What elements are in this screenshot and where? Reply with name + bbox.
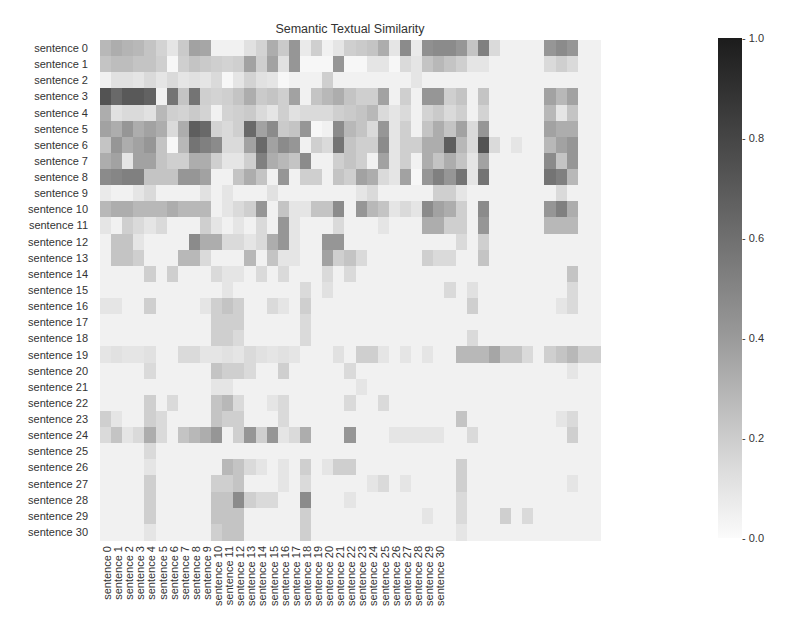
x-tick-label: sentence 16	[279, 546, 291, 606]
colorbar-tick-label: - 0.8	[742, 132, 764, 144]
y-tick-label: sentence 16	[28, 300, 88, 312]
y-tick-label: sentence 19	[28, 349, 88, 361]
heatmap-cell	[589, 475, 601, 492]
heatmap-cell	[589, 153, 601, 170]
colorbar	[718, 38, 742, 538]
heatmap-cell	[589, 298, 601, 315]
x-tick-label: sentence 17	[290, 546, 302, 606]
y-tick-label: sentence 0	[34, 42, 88, 54]
x-tick-label: sentence 27	[401, 546, 413, 606]
heatmap-cell	[589, 266, 601, 283]
colorbar-tick-label: - 0.0	[742, 532, 764, 544]
y-tick-label: sentence 1	[34, 58, 88, 70]
y-tick-label: sentence 13	[28, 252, 88, 264]
y-tick-label: sentence 6	[34, 139, 88, 151]
x-tick-label: sentence 8	[190, 546, 202, 600]
y-tick-label: sentence 8	[34, 171, 88, 183]
heatmap-cell	[589, 314, 601, 331]
heatmap-cell	[589, 185, 601, 202]
x-axis-labels: sentence 0sentence 1sentence 2sentence 3…	[100, 546, 600, 636]
y-tick-label: sentence 14	[28, 268, 88, 280]
heatmap-cell	[589, 201, 601, 218]
heatmap-cell	[589, 443, 601, 460]
heatmap-cell	[589, 346, 601, 363]
y-tick-label: sentence 12	[28, 236, 88, 248]
x-tick-label: sentence 26	[390, 546, 402, 606]
heatmap-cell	[589, 217, 601, 234]
x-tick-label: sentence 14	[256, 546, 268, 606]
y-tick-label: sentence 30	[28, 526, 88, 538]
heatmap-cell	[589, 395, 601, 412]
heatmap-cell	[589, 88, 601, 105]
y-tick-label: sentence 23	[28, 413, 88, 425]
y-tick-label: sentence 11	[29, 219, 88, 231]
heatmap-cell	[589, 250, 601, 267]
x-tick-label: sentence 18	[301, 546, 313, 606]
y-tick-label: sentence 3	[34, 90, 88, 102]
heatmap-cell	[589, 379, 601, 396]
x-tick-label: sentence 6	[168, 546, 180, 600]
y-tick-label: sentence 21	[28, 381, 88, 393]
x-tick-label: sentence 28	[412, 546, 424, 606]
heatmap-cell	[589, 282, 601, 299]
y-tick-label: sentence 17	[28, 316, 88, 328]
heatmap-grid	[100, 40, 600, 540]
x-tick-label: sentence 15	[268, 546, 280, 606]
y-tick-label: sentence 27	[28, 478, 88, 490]
heatmap-cell	[589, 234, 601, 251]
y-axis-labels: sentence 0sentence 1sentence 2sentence 3…	[0, 40, 94, 540]
y-tick-label: sentence 22	[28, 397, 88, 409]
y-tick-label: sentence 4	[34, 107, 88, 119]
colorbar-tick-label: - 1.0	[742, 32, 764, 44]
y-tick-label: sentence 10	[28, 203, 88, 215]
y-tick-label: sentence 25	[28, 445, 88, 457]
colorbar-ticks: - 1.0- 0.8- 0.6- 0.4- 0.2- 0.0	[742, 38, 792, 538]
x-tick-label: sentence 24	[367, 546, 379, 606]
x-tick-label: sentence 5	[157, 546, 169, 600]
heatmap-cell	[589, 459, 601, 476]
heatmap-cell	[589, 121, 601, 138]
heatmap-cell	[589, 492, 601, 509]
y-tick-label: sentence 18	[28, 332, 88, 344]
heatmap-cell	[589, 330, 601, 347]
colorbar-tick-label: - 0.4	[742, 332, 764, 344]
heatmap-cell	[589, 508, 601, 525]
y-tick-label: sentence 15	[28, 284, 88, 296]
y-tick-label: sentence 26	[28, 461, 88, 473]
heatmap-cell	[589, 105, 601, 122]
y-tick-label: sentence 24	[28, 429, 88, 441]
y-tick-label: sentence 7	[34, 155, 88, 167]
y-tick-label: sentence 29	[28, 510, 88, 522]
x-tick-label: sentence 30	[434, 546, 446, 606]
x-tick-label: sentence 4	[145, 546, 157, 600]
heatmap-cell	[589, 524, 601, 541]
heatmap-cell	[589, 169, 601, 186]
heatmap-cell	[589, 72, 601, 89]
heatmap-cell	[589, 137, 601, 154]
heatmap-cell	[589, 56, 601, 73]
y-tick-label: sentence 28	[28, 494, 88, 506]
y-tick-label: sentence 5	[34, 123, 88, 135]
colorbar-tick-label: - 0.6	[742, 232, 764, 244]
heatmap-cell	[589, 363, 601, 380]
y-tick-label: sentence 20	[28, 365, 88, 377]
heatmap-cell	[589, 411, 601, 428]
chart-title: Semantic Textual Similarity	[100, 22, 600, 36]
heatmap-cell	[589, 40, 601, 57]
x-tick-label: sentence 25	[379, 546, 391, 606]
y-tick-label: sentence 2	[34, 74, 88, 86]
y-tick-label: sentence 9	[34, 187, 88, 199]
heatmap-cell	[589, 427, 601, 444]
x-tick-label: sentence 7	[179, 546, 191, 600]
colorbar-tick-label: - 0.2	[742, 432, 764, 444]
